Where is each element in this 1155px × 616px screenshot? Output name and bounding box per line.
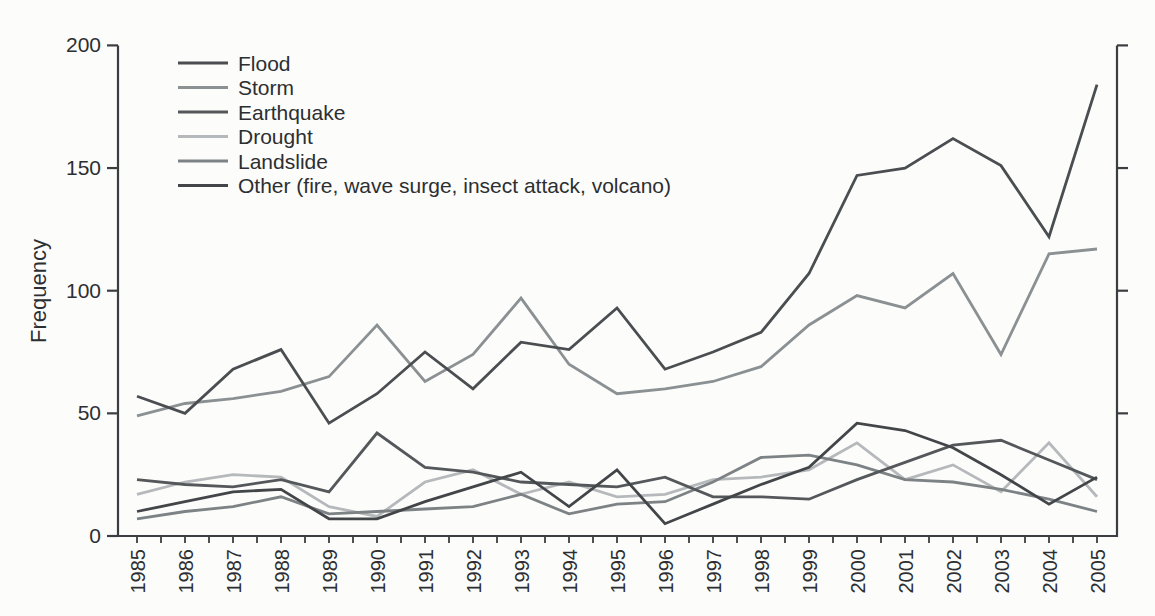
x-tick-label: 1991 [415, 549, 437, 594]
legend-item-other: Other (fire, wave surge, insect attack, … [178, 174, 671, 197]
legend-item-storm: Storm [178, 76, 294, 99]
x-tick-label: 1989 [319, 549, 341, 594]
legend: FloodStormEarthquakeDroughtLandslideOthe… [178, 52, 671, 198]
x-tick-label: 2005 [1087, 549, 1109, 594]
y-axis-title: Frequency [26, 239, 51, 343]
y-tick-label: 200 [66, 33, 101, 56]
x-tick-label: 1988 [271, 549, 293, 594]
disaster-frequency-chart: 0501001502001985198619871988198919901991… [0, 0, 1155, 616]
legend-item-landslide: Landslide [178, 150, 328, 173]
x-tick-label: 2001 [895, 549, 917, 594]
x-tick-label: 2003 [991, 549, 1013, 594]
legend-label: Landslide [238, 150, 328, 173]
x-tick-label: 1987 [223, 549, 245, 594]
x-tick-label: 1997 [703, 549, 725, 594]
x-tick-label: 1995 [607, 549, 629, 594]
x-tick-label: 2004 [1039, 549, 1061, 594]
series-line-storm [137, 249, 1097, 416]
y-tick-label: 100 [66, 279, 101, 302]
x-tick-label: 1999 [799, 549, 821, 594]
legend-label: Flood [238, 52, 291, 75]
legend-item-earthquake: Earthquake [178, 101, 345, 124]
x-tick-label: 2002 [943, 549, 965, 594]
x-tick-label: 1985 [127, 549, 149, 594]
x-tick-label: 2000 [847, 549, 869, 594]
x-tick-label: 1992 [463, 549, 485, 594]
legend-label: Earthquake [238, 101, 345, 124]
y-tick-label: 50 [78, 401, 101, 424]
legend-label: Storm [238, 76, 294, 99]
x-tick-label: 1986 [175, 549, 197, 594]
legend-label: Drought [238, 125, 313, 148]
x-tick-label: 1993 [511, 549, 533, 594]
chart-canvas: 0501001502001985198619871988198919901991… [0, 0, 1155, 616]
series-line-other [137, 423, 1097, 524]
legend-item-flood: Flood [178, 52, 291, 75]
x-tick-label: 1994 [559, 549, 581, 594]
legend-item-drought: Drought [178, 125, 313, 148]
legend-label: Other (fire, wave surge, insect attack, … [238, 174, 671, 197]
x-tick-label: 1996 [655, 549, 677, 594]
x-tick-label: 1998 [751, 549, 773, 594]
y-tick-label: 150 [66, 156, 101, 179]
x-tick-label: 1990 [367, 549, 389, 594]
y-tick-label: 0 [89, 524, 101, 547]
